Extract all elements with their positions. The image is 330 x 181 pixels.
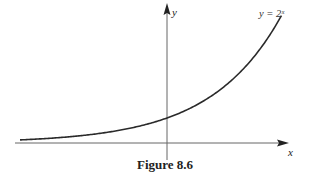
figure-svg: y x y = 2ˣ [0,0,330,181]
y-axis-label: y [171,6,177,18]
curve-label: y = 2ˣ [258,8,285,19]
exponential-curve [20,16,281,140]
figure-caption: Figure 8.6 [0,157,330,173]
